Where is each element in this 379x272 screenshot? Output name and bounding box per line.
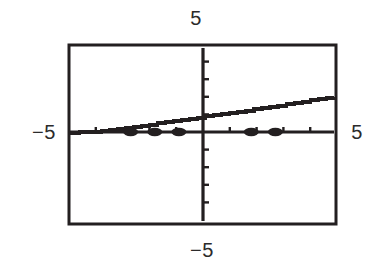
axis-dot: [147, 128, 162, 136]
axis-dot: [244, 128, 259, 136]
graph-figure: 5 −5 −5 5: [0, 0, 379, 272]
axes-lines: [70, 48, 334, 221]
axis-dot: [123, 128, 138, 136]
axis-dot: [268, 128, 283, 136]
plot-canvas: [0, 0, 379, 272]
axis-dot: [171, 128, 186, 136]
